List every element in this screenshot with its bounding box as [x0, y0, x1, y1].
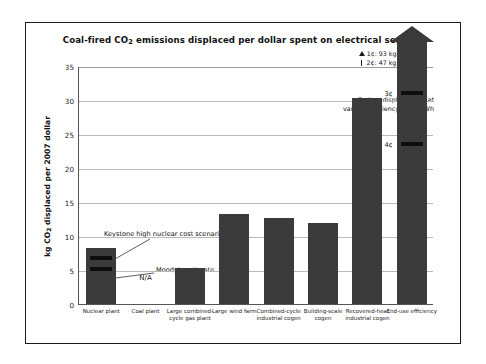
y-axis-label-main: kg CO [43, 231, 52, 256]
plot-area: 05101520253035Nuclear plantN/ACoal plant… [78, 67, 433, 305]
cost-tag-label: 4¢ [384, 141, 392, 149]
bar-slot: Recovered-heatindustrial cogen [345, 67, 389, 304]
bar-slot: Building-scalecogen [301, 67, 345, 304]
y-tick-label: 25 [65, 131, 74, 140]
bar [219, 214, 249, 304]
plot-inner: 05101520253035Nuclear plantN/ACoal plant… [79, 67, 433, 304]
bar-slot: Nuclear plant [79, 67, 123, 304]
bar-slot: Combined-cycleindustrial cogen [257, 67, 301, 304]
bar [264, 218, 294, 304]
bar-value-marker [401, 91, 423, 95]
figure-frame: Coal-fired CO2 emissions displaced per d… [25, 22, 461, 344]
bar [397, 66, 427, 304]
x-tick-label-line: End-use efficiency [383, 308, 441, 315]
cost-tag-label: 3¢ [384, 90, 392, 98]
bar [308, 223, 338, 304]
na-label: N/A [139, 274, 151, 282]
x-tick-label: End-use efficiency [383, 308, 441, 315]
triangle-marker-icon [359, 51, 365, 56]
bar-marker-icon [361, 60, 363, 66]
y-tick-label: 10 [65, 233, 74, 242]
arrow-shaft [397, 40, 427, 66]
chart-title-main: Coal-fired CO [63, 35, 128, 45]
bar-slot: Large wind farm [212, 67, 256, 304]
x-tick-label-line: industrial cogen [338, 315, 396, 322]
y-axis-label: kg CO2 displaced per 2007 dollar [40, 67, 54, 305]
chart-title-rest: emissions displaced per dollar spent on … [133, 35, 425, 45]
y-tick-label: 15 [65, 199, 74, 208]
bar-slot: N/ACoal plant [123, 67, 167, 304]
bar-slot: End-use efficiency [390, 67, 434, 304]
bar-value-marker [90, 267, 112, 271]
up-arrow-icon [390, 26, 434, 66]
bar-value-marker [90, 256, 112, 260]
bar [175, 268, 205, 304]
y-axis-label-rest: displaced per 2007 dollar [43, 116, 52, 228]
x-tick-label-line: cycle gas plant [161, 315, 219, 322]
y-tick-label: 5 [69, 267, 74, 276]
bar-slot: Large combined-cycle gas plant [168, 67, 212, 304]
bar [352, 98, 382, 304]
y-tick-label: 30 [65, 97, 74, 106]
y-tick-label: 35 [65, 63, 74, 72]
bar-value-marker [401, 142, 423, 146]
y-tick-label: 20 [65, 165, 74, 174]
